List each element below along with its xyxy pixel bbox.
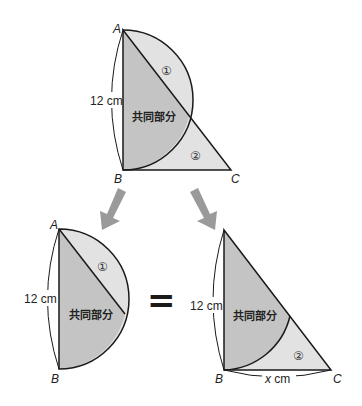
region1-label: ① — [161, 64, 172, 78]
region1-label-left: ① — [97, 260, 108, 274]
diagram: 12 cm A B C 共同部分 ① ② 12 cm A B 共同部分 ① = … — [0, 0, 362, 406]
arrow-right-icon — [190, 188, 217, 230]
top-figure: 12 cm A B C 共同部分 ① ② — [88, 22, 240, 186]
side-bc-label: x cm — [264, 372, 290, 386]
region2-label-right: ② — [293, 349, 304, 363]
region2-label: ② — [190, 149, 201, 163]
vertex-b: B — [114, 172, 122, 186]
vertex-c-right: C — [333, 372, 342, 386]
vertex-a: A — [112, 22, 121, 36]
side-ab-label: 12 cm — [90, 94, 123, 108]
bottom-right-figure: 12 cm x cm B C 共同部分 ② — [188, 230, 342, 386]
common-label-left: 共同部分 — [69, 308, 113, 322]
arrows — [100, 188, 217, 230]
vertex-c: C — [231, 172, 240, 186]
arrow-left-icon — [100, 188, 126, 230]
common-label-right: 共同部分 — [233, 309, 277, 323]
side-ab-label-right: 12 cm — [190, 299, 223, 313]
bottom-left-figure: 12 cm A B 共同部分 ① — [22, 218, 129, 386]
side-ab-label-left: 12 cm — [24, 292, 57, 306]
vertex-b-left: B — [51, 372, 59, 386]
common-label: 共同部分 — [132, 110, 176, 124]
vertex-a-left: A — [49, 218, 58, 232]
vertex-b-right: B — [215, 372, 223, 386]
equals-sign: = — [147, 280, 176, 320]
